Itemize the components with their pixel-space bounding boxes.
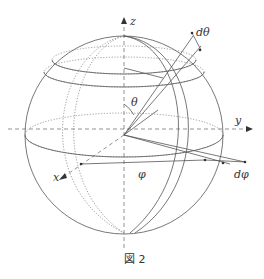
z-axis-label: z bbox=[129, 15, 136, 28]
theta-label: θ bbox=[131, 96, 138, 109]
y-axis-arrowhead bbox=[246, 126, 253, 132]
radius-line-3 bbox=[124, 110, 158, 135]
x-axis-label: x bbox=[53, 171, 60, 184]
d-phi-label: dφ bbox=[234, 168, 249, 181]
y-axis-label: y bbox=[234, 114, 242, 127]
d-theta-point-1 bbox=[191, 32, 194, 35]
phi-point-2 bbox=[204, 159, 207, 162]
x-axis bbox=[62, 135, 124, 178]
ring-radius-line bbox=[124, 68, 163, 78]
radius-line-2 bbox=[124, 46, 201, 135]
sphere-diagram: z y x θ φ dθ dφ 図 2 bbox=[0, 0, 264, 279]
radius-line-1 bbox=[124, 36, 193, 135]
meridian-left-1 bbox=[74, 36, 124, 233]
phi-point-1 bbox=[80, 163, 83, 166]
phi-arc-line bbox=[81, 160, 205, 164]
d-theta-point-2 bbox=[199, 49, 202, 52]
d-phi-point-1 bbox=[222, 162, 225, 165]
phi-radius-1 bbox=[124, 135, 245, 162]
d-phi-point-2 bbox=[244, 161, 247, 164]
z-axis-arrowhead bbox=[121, 17, 127, 24]
meridian-left-2 bbox=[63, 36, 124, 233]
phi-radius-2 bbox=[124, 135, 230, 164]
spherical-coordinates-figure: z y x θ φ dθ dφ 図 2 bbox=[0, 0, 264, 279]
figure-caption: 図 2 bbox=[124, 253, 146, 266]
phi-label: φ bbox=[138, 168, 146, 181]
x-axis-arrowhead bbox=[59, 173, 67, 180]
d-theta-label: dθ bbox=[196, 26, 210, 39]
